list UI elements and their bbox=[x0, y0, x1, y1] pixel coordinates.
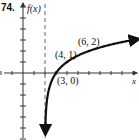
data-point bbox=[55, 72, 58, 75]
x-axis-label: x bbox=[131, 76, 136, 86]
point-label: (4, 1) bbox=[55, 49, 77, 61]
problem-number: 74. bbox=[1, 2, 15, 13]
data-point bbox=[88, 50, 91, 53]
data-point bbox=[66, 61, 69, 64]
point-label: (3, 0) bbox=[57, 75, 79, 87]
y-axis-label: f(x) bbox=[27, 3, 42, 15]
log-function-graph: 74. f(x)x(3, 0)(4, 1)(6, 2) bbox=[0, 0, 139, 140]
graph-canvas: f(x)x(3, 0)(4, 1)(6, 2) bbox=[0, 0, 139, 140]
point-label: (6, 2) bbox=[78, 36, 100, 48]
